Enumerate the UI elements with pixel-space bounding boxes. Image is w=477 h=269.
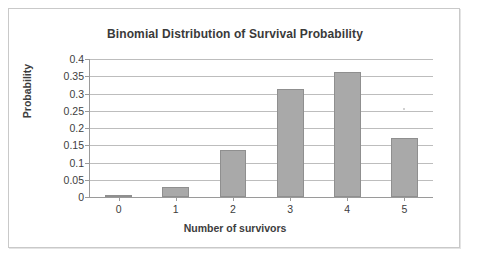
- y-tick-mark: [85, 59, 89, 60]
- bar-slot: [204, 59, 261, 197]
- y-tick-label: 0.25: [64, 105, 84, 117]
- bar[interactable]: [391, 138, 418, 197]
- y-tick-label: 0.1: [69, 157, 84, 169]
- bar-slot: [262, 59, 319, 197]
- x-tick-slot: 4: [319, 197, 376, 221]
- x-tick-slot: 5: [376, 197, 433, 221]
- bar[interactable]: [162, 187, 189, 197]
- scan-artifact-speck: [403, 108, 405, 110]
- x-tick-label: 0: [90, 203, 147, 215]
- x-tick-mark: [347, 197, 348, 201]
- x-tick-mark: [404, 197, 405, 201]
- x-tick-label: 5: [376, 203, 433, 215]
- x-tick-slot: 0: [90, 197, 147, 221]
- y-tick-mark: [85, 94, 89, 95]
- y-tick-label: 0.3: [69, 88, 84, 100]
- x-tick-mark: [176, 197, 177, 201]
- y-tick-mark: [85, 111, 89, 112]
- x-tick-label: 3: [262, 203, 319, 215]
- bar[interactable]: [334, 72, 361, 197]
- x-tick-slot: 3: [262, 197, 319, 221]
- bar-series: [90, 59, 433, 197]
- plot-area: 00.050.10.150.20.250.30.350.4 012345: [89, 59, 433, 197]
- bar-slot: [376, 59, 433, 197]
- y-tick-label: 0.2: [69, 122, 84, 134]
- y-tick-mark: [85, 163, 89, 164]
- x-tick-mark: [233, 197, 234, 201]
- y-tick-mark: [85, 180, 89, 181]
- y-axis-title: Probability: [21, 31, 33, 151]
- bar-slot: [147, 59, 204, 197]
- bar-slot: [319, 59, 376, 197]
- x-axis-title: Number of survivors: [9, 222, 461, 234]
- x-tick-slot: 1: [147, 197, 204, 221]
- x-axis-ticks: 012345: [90, 197, 433, 221]
- y-tick-label: 0.05: [64, 174, 84, 186]
- y-tick-label: 0.15: [64, 139, 84, 151]
- x-tick-mark: [290, 197, 291, 201]
- x-tick-label: 1: [147, 203, 204, 215]
- y-tick-mark: [85, 145, 89, 146]
- y-tick-mark: [85, 76, 89, 77]
- y-tick-label: 0: [78, 191, 84, 203]
- x-tick-label: 2: [204, 203, 261, 215]
- y-tick-mark: [85, 128, 89, 129]
- chart-frame: Binomial Distribution of Survival Probab…: [8, 8, 460, 248]
- bar-slot: [90, 59, 147, 197]
- x-tick-label: 4: [319, 203, 376, 215]
- x-tick-mark: [119, 197, 120, 201]
- bar[interactable]: [277, 89, 304, 197]
- y-tick-label: 0.35: [64, 70, 84, 82]
- bar[interactable]: [220, 150, 247, 197]
- y-tick-label: 0.4: [69, 53, 84, 65]
- x-tick-slot: 2: [204, 197, 261, 221]
- chart-title: Binomial Distribution of Survival Probab…: [9, 27, 461, 41]
- chart-figure: Binomial Distribution of Survival Probab…: [0, 0, 477, 269]
- y-tick-mark: [85, 197, 89, 198]
